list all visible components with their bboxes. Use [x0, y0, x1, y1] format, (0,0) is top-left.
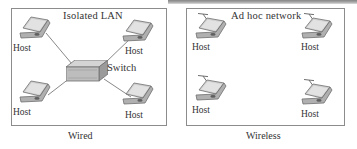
caption-wireless: Wireless — [246, 130, 281, 141]
switch-3d-box-icon — [66, 60, 108, 84]
network-topology-figure: Isolated LAN Switch Host — [0, 0, 357, 149]
host-label: Host — [301, 42, 319, 52]
laptop-antenna-icon — [300, 12, 334, 42]
host-label: Host — [301, 109, 319, 119]
panel-wireless-heading: Ad hoc network — [231, 10, 301, 21]
host-label: Host — [192, 105, 210, 115]
switch-label: Switch — [107, 62, 136, 73]
laptop-icon — [18, 14, 52, 44]
laptop-antenna-icon — [194, 74, 228, 104]
host-label: Host — [13, 107, 31, 117]
laptop-icon — [121, 17, 155, 47]
host-label: Host — [125, 110, 143, 120]
host-label: Host — [13, 43, 31, 53]
laptop-antenna-icon — [300, 78, 334, 108]
laptop-icon — [18, 78, 52, 108]
laptop-antenna-icon — [194, 12, 228, 42]
host-label: Host — [192, 42, 210, 52]
host-label: Host — [125, 46, 143, 56]
laptop-icon — [121, 80, 155, 110]
caption-wired: Wired — [68, 130, 93, 141]
